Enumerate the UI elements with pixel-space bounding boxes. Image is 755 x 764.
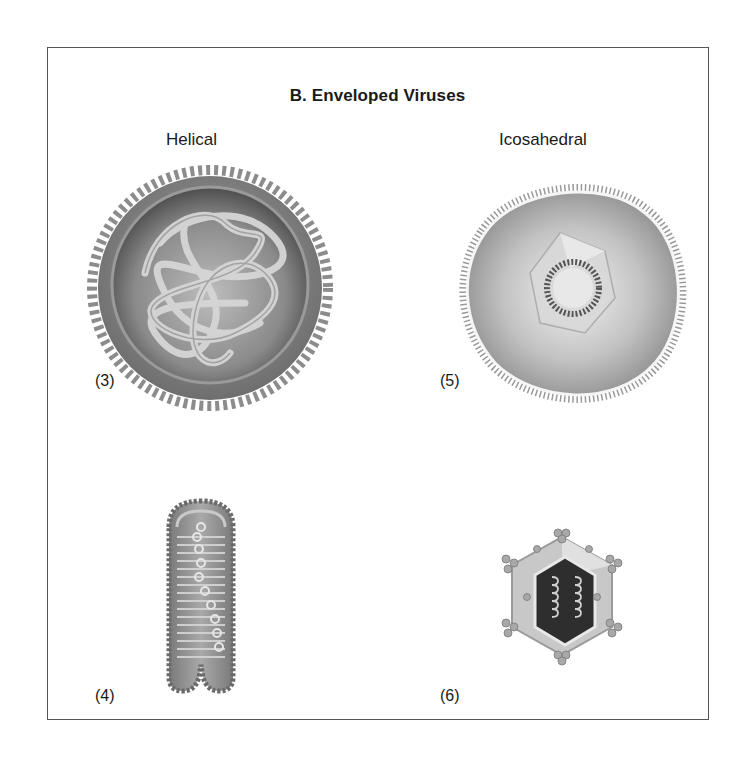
panel-label-3: (3) xyxy=(95,372,115,390)
column-heading-icosahedral: Icosahedral xyxy=(499,130,587,150)
panel-label-5: (5) xyxy=(440,372,460,390)
panel-label-4: (4) xyxy=(95,687,115,705)
column-heading-helical: Helical xyxy=(166,130,217,150)
virus-illustration-6 xyxy=(497,527,627,667)
virus-illustration-4 xyxy=(163,497,239,695)
virus-illustration-5 xyxy=(455,173,695,413)
figure-title: B. Enveloped Viruses xyxy=(0,86,755,106)
panel-label-6: (6) xyxy=(440,687,460,705)
virus-illustration-3 xyxy=(85,163,335,413)
